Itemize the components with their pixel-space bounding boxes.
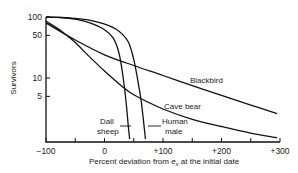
y-axis-title: Survivors bbox=[9, 61, 18, 94]
y-tick-label: 10 bbox=[33, 73, 43, 83]
x-tick-label: 0 bbox=[102, 146, 107, 156]
x-tick-label: +300 bbox=[270, 146, 289, 156]
label-dall-sheep-1: Dall bbox=[100, 117, 114, 126]
x-tick-label: +200 bbox=[212, 146, 231, 156]
label-human-male-1: Human bbox=[162, 117, 188, 126]
curve-blackbird bbox=[46, 23, 277, 114]
y-tick-label: 5 bbox=[37, 91, 42, 101]
axes: −1000+100+200+30010050105 bbox=[28, 12, 290, 156]
x-tick-label: −100 bbox=[36, 146, 55, 156]
y-tick-label: 50 bbox=[33, 30, 43, 40]
curve-human-male bbox=[46, 17, 145, 139]
x-tick-label: +100 bbox=[153, 146, 172, 156]
label-human-male-2: male bbox=[165, 127, 183, 136]
y-tick-label: 100 bbox=[28, 12, 42, 22]
label-dall-sheep-2: sheep bbox=[97, 127, 119, 136]
survivorship-chart: −1000+100+200+30010050105 Blackbird Cave… bbox=[0, 0, 298, 173]
label-blackbird: Blackbird bbox=[190, 76, 223, 85]
x-axis-title: Percent deviation from ex at the initial… bbox=[89, 157, 240, 167]
annotations: Blackbird Cave bear Dall sheep Human mal… bbox=[97, 76, 223, 136]
curve-dall-sheep bbox=[46, 17, 130, 139]
label-cave-bear: Cave bear bbox=[164, 102, 201, 111]
